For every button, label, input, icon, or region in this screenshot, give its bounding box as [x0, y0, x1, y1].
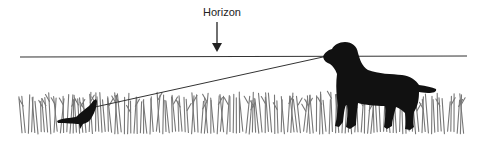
horizon-line [20, 56, 467, 57]
horizon-label: Horizon [203, 6, 241, 18]
arrow-down-icon [212, 22, 222, 52]
line-of-sight [95, 57, 323, 107]
diagram-svg [0, 0, 486, 141]
diagram-canvas: Horizon [0, 0, 486, 141]
